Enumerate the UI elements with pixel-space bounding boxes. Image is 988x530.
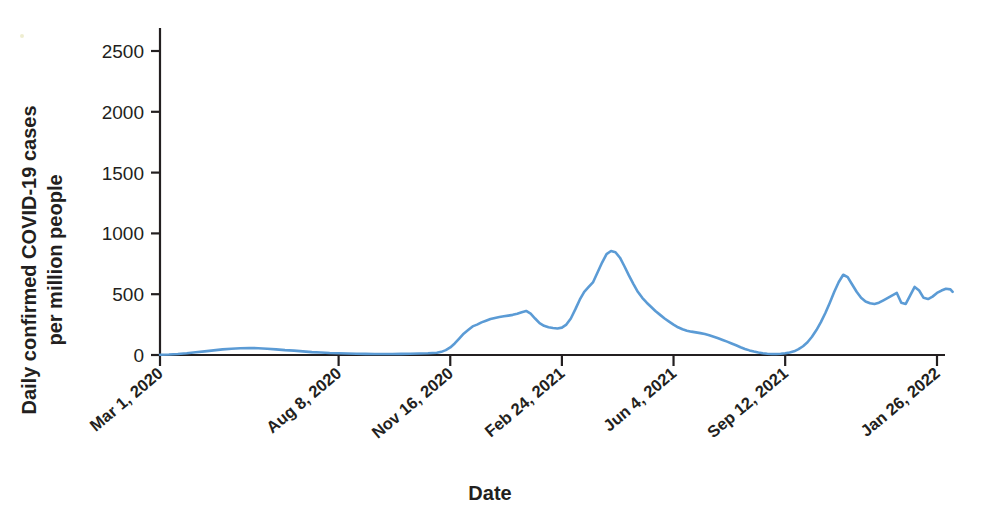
x-axis-ticks: Mar 1, 2020Aug 8, 2020Nov 16, 2020Feb 24… [86, 355, 943, 442]
x-axis-tick-label: Jan 26, 2022 [857, 364, 943, 440]
x-axis-tick-label: Aug 8, 2020 [263, 364, 345, 437]
y-axis-title: Daily confirmed COVID-19 cases per milli… [18, 105, 66, 414]
y-axis-tick-label: 1000 [102, 223, 144, 244]
y-axis-title-line1: Daily confirmed COVID-19 cases [18, 105, 40, 414]
y-axis-tick-label: 500 [112, 284, 144, 305]
y-axis-ticks: 05001000150020002500 [102, 41, 160, 366]
x-axis-title: Date [468, 482, 511, 504]
y-axis-title-line2: per million people [44, 174, 66, 345]
page-speck [20, 34, 24, 38]
data-series-line [160, 251, 953, 355]
x-axis-tick-label: Mar 1, 2020 [86, 364, 166, 435]
x-axis-tick-label: Jun 4, 2021 [600, 364, 680, 435]
x-axis-tick-label: Feb 24, 2021 [481, 364, 568, 441]
y-axis-tick-label: 2000 [102, 102, 144, 123]
chart-container: Daily confirmed COVID-19 cases per milli… [0, 0, 988, 530]
x-axis-tick-label: Sep 12, 2021 [704, 364, 791, 441]
y-axis-tick-label: 0 [133, 345, 144, 366]
y-axis-tick-label: 1500 [102, 163, 144, 184]
covid-daily-cases-line-chart: Daily confirmed COVID-19 cases per milli… [0, 0, 988, 530]
y-axis-tick-label: 2500 [102, 41, 144, 62]
x-axis-tick-label: Nov 16, 2020 [368, 364, 456, 442]
